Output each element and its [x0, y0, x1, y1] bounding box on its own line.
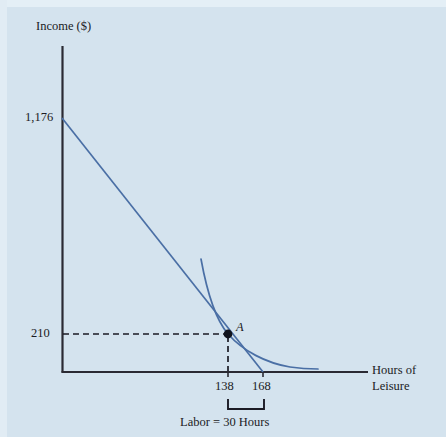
x-tick-label-138: 138 [215, 379, 234, 393]
x-axis-title: Hours of Leisure [372, 363, 416, 394]
optimum-point-a [224, 330, 233, 339]
x-axis-title-line-1: Hours of [372, 363, 416, 379]
y-tick-label-1176: 1,176 [25, 110, 53, 124]
y-tick-label-210: 210 [31, 326, 50, 340]
labor-bracket [228, 400, 264, 409]
figure-container: Income ($) Hours of Leisure 1,176 210 13… [0, 0, 446, 446]
x-axis-title-line-2: Leisure [372, 379, 416, 395]
budget-constraint-line [62, 118, 263, 372]
y-axis-title: Income ($) [36, 19, 91, 33]
point-a-label: A [236, 320, 244, 334]
labor-bracket-label: Labor = 30 Hours [180, 415, 269, 429]
x-tick-label-168: 168 [252, 379, 271, 393]
indifference-curve [201, 259, 318, 369]
